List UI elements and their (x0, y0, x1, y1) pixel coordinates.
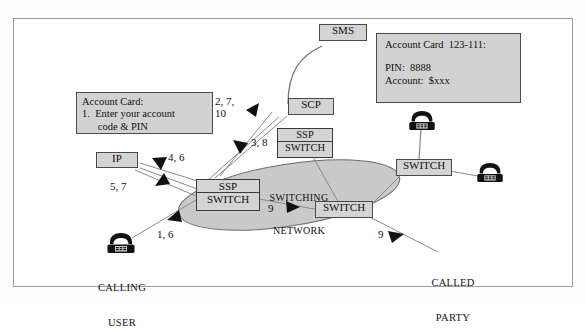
label-3-8: 3, 8 (251, 136, 268, 148)
link-cloud-called-party (360, 212, 438, 252)
node-ssp-upper[interactable]: SSP SWITCH (277, 128, 333, 158)
right-card-pin: PIN: 8888 (385, 62, 512, 74)
right-account-card: Account Card 123-111: PIN: 8888 Account:… (376, 33, 521, 103)
telephone-icon-top-right (406, 108, 438, 133)
calling-user-line-2: USER (94, 317, 150, 329)
right-card-spacer (385, 51, 512, 62)
node-ssp-upper-top: SSP (278, 129, 332, 142)
node-ssp-left-top: SSP (197, 180, 259, 193)
label-9-called: 9 (378, 228, 384, 240)
telephone-icon-mid-right (474, 160, 506, 185)
switching-network-line-2: NETWORK (254, 225, 344, 236)
node-ssp-left-bottom: SWITCH (197, 193, 259, 205)
label-1-6: 1, 6 (157, 228, 174, 240)
right-card-account: Account: $xxx (385, 75, 512, 87)
label-2-7-10: 2, 7, 10 (215, 95, 234, 119)
node-ip[interactable]: IP (96, 152, 138, 168)
left-card-line-3: code & PIN (82, 121, 207, 133)
right-card-line-1: Account Card 123-111: (385, 39, 512, 51)
calling-user-line-1: CALLING (94, 282, 150, 294)
label-9-network: 9 (268, 202, 274, 214)
left-card-line-1: Account Card: (82, 96, 207, 108)
node-ssp-upper-bottom: SWITCH (278, 142, 332, 154)
node-scp-label: SCP (289, 99, 333, 111)
called-party-line-1: CALLED (420, 277, 486, 289)
called-party-line-2: PARTY (420, 312, 486, 324)
arrow-4-6 (152, 157, 167, 170)
calling-user-caption: CALLING USER (94, 259, 150, 330)
node-sms[interactable]: SMS (319, 24, 367, 41)
node-switch-right[interactable]: SWITCH (396, 159, 452, 176)
node-ip-label: IP (97, 153, 137, 165)
arrow-2-7-10 (246, 103, 259, 117)
link-sms-scp (288, 46, 322, 104)
node-sms-label: SMS (320, 25, 366, 37)
node-ssp-left[interactable]: SSP SWITCH (196, 179, 260, 211)
label-5-7: 5, 7 (110, 180, 127, 192)
telephone-icon-calling-user (104, 230, 138, 256)
called-party-caption: CALLED PARTY (420, 254, 486, 330)
left-account-card: Account Card: 1. Enter your account code… (76, 92, 213, 134)
node-scp[interactable]: SCP (288, 98, 334, 115)
label-4-6: 4, 6 (168, 151, 185, 163)
left-card-line-2: 1. Enter your account (82, 108, 207, 120)
node-switch-right-label: SWITCH (397, 160, 451, 172)
